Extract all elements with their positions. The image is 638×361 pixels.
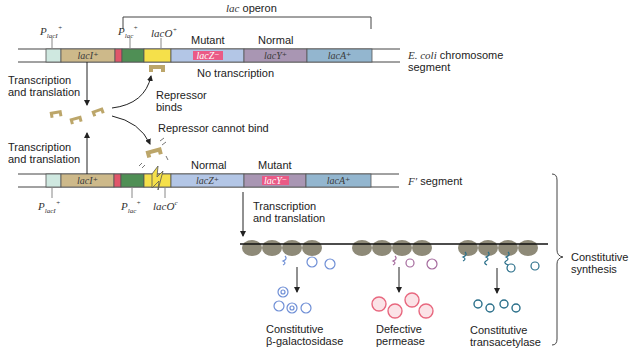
promoter-lac-label-bottom: Plac+ xyxy=(121,199,141,215)
product-label-beta-gal: Constitutiveβ-galactosidase xyxy=(266,323,343,347)
promoter-laci-label-bottom: PlacI+ xyxy=(38,199,60,215)
tt-bottom-label: Transcriptionand translation xyxy=(8,141,80,165)
tt-right-label: Transcriptionand translation xyxy=(253,200,325,224)
product-label-permease: Defectivepermease xyxy=(376,323,425,347)
beta-galactosidase-proteins xyxy=(274,287,311,313)
status-lacy-bottom: Mutant xyxy=(258,159,292,171)
transacetylase-proteins xyxy=(474,300,520,312)
status-lacy-top: Normal xyxy=(258,34,293,46)
operator-label-bottom: lacOc xyxy=(153,199,178,212)
permease-proteins xyxy=(372,293,433,318)
gene-lacz-bottom: lacZ⁺ xyxy=(171,174,244,187)
free-repressors xyxy=(50,107,105,124)
product-label-transacetylase: Constitutivetransacetylase xyxy=(470,324,541,348)
constitutive-synthesis-label: Constitutivesynthesis xyxy=(571,251,628,275)
lac-operon-label: lac operon xyxy=(226,2,277,14)
arrow-repressor-binds xyxy=(112,76,151,108)
status-lacz-top: Mutant xyxy=(191,34,225,46)
arrow-repressor-cannot xyxy=(112,116,150,144)
gene-laci-top: lacI⁺ xyxy=(61,49,115,62)
no-transcription-label: No transcription xyxy=(197,67,274,79)
promoter-laci-label-top: PlacI+ xyxy=(40,24,62,40)
promoter-lac-label-top: Plac+ xyxy=(118,24,138,40)
gene-lacz-top: lacZ⁻ xyxy=(193,49,223,62)
polysome xyxy=(240,240,548,272)
unbound-repressor xyxy=(139,138,168,168)
repressor-cannot-bind-label: Repressor cannot bind xyxy=(158,122,269,134)
tt-top-label: Transcriptionand translation xyxy=(8,74,80,98)
operator-label-top: lacO+ xyxy=(151,26,177,39)
bound-repressor xyxy=(149,65,165,72)
repressor-binds-label: Repressorbinds xyxy=(156,89,207,113)
gene-laca-top: lacA⁺ xyxy=(307,49,372,62)
constitutive-brace xyxy=(552,174,563,345)
status-lacz-bottom: Normal xyxy=(191,159,226,171)
chromosome-segment-label: E. coli chromosomesegment xyxy=(408,49,503,73)
gene-lacy-bottom: lacY⁻ xyxy=(262,174,289,187)
gene-lacy-top: lacY⁺ xyxy=(244,49,307,62)
gene-laca-bottom: lacA⁺ xyxy=(306,174,371,187)
fprime-segment-label: F′ segment xyxy=(408,175,462,187)
gene-laci-bottom: lacI⁺ xyxy=(61,174,114,187)
